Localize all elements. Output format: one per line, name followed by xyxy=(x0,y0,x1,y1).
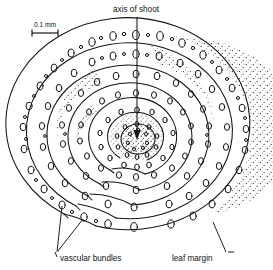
shoot-cross-section-figure: axis of shoot 0.1 mm vascular bundles le… xyxy=(0,0,273,270)
vascular-bundle xyxy=(40,144,45,151)
vascular-bundle xyxy=(209,85,214,92)
vascular-bundle xyxy=(147,162,152,168)
vascular-bundle xyxy=(229,84,235,92)
vascular-bundle-small xyxy=(45,75,48,78)
vascular-bundle xyxy=(164,182,170,189)
vascular-bundle xyxy=(131,203,137,211)
vascular-bundle-small xyxy=(170,37,173,40)
vascular-bundle xyxy=(171,130,175,135)
vascular-bundle xyxy=(106,117,110,123)
vascular-bundle-small xyxy=(237,97,240,100)
section-body xyxy=(6,18,273,232)
vascular-bundle-small xyxy=(226,78,229,81)
vascular-bundle xyxy=(98,130,102,135)
vascular-bundle xyxy=(173,80,178,87)
vascular-bundle xyxy=(216,66,222,74)
vascular-bundle xyxy=(89,58,95,66)
leaf-margin-label: leaf margin xyxy=(172,254,213,263)
vascular-bundle-small xyxy=(24,116,27,119)
vascular-bundle xyxy=(225,185,231,193)
vascular-bundle xyxy=(186,192,192,199)
vascular-bundle-small xyxy=(51,197,54,200)
vascular-bundle xyxy=(100,98,105,104)
vascular-bundle xyxy=(89,38,95,46)
vascular-bundle xyxy=(41,185,47,193)
vascular-bundle xyxy=(223,144,228,151)
vascular-bundle xyxy=(216,163,221,170)
vascular-bundle xyxy=(209,200,215,208)
vascular-bundle-small xyxy=(211,61,214,64)
vascular-bundle xyxy=(68,158,73,165)
vascular-bundle xyxy=(21,145,27,152)
vascular-bundle xyxy=(170,144,174,149)
axis-of-shoot-label: axis of shoot xyxy=(113,5,160,14)
vascular-bundle xyxy=(62,179,68,186)
vascular-bundle xyxy=(170,165,175,171)
vascular-bundle xyxy=(219,104,224,111)
vascular-bundle xyxy=(113,72,119,79)
vascular-bundle xyxy=(151,172,156,179)
vascular-bundle xyxy=(135,164,140,170)
scale-bar-label: 0.1 mm xyxy=(34,21,56,28)
vascular-bundle xyxy=(39,123,44,130)
leader-line-icon xyxy=(58,219,83,251)
vascular-bundle xyxy=(60,141,65,148)
vascular-bundle xyxy=(133,174,138,181)
vascular-bundle xyxy=(45,102,50,109)
vascular-bundle xyxy=(243,125,249,132)
vascular-bundle-small xyxy=(61,59,64,62)
vascular-bundle xyxy=(119,109,123,115)
vascular-bundle xyxy=(56,84,62,91)
vascular-bundle-small xyxy=(206,134,209,137)
scale-bar-icon xyxy=(32,30,58,37)
vascular-bundle xyxy=(78,138,83,144)
vascular-bundle xyxy=(200,51,206,59)
vascular-bundle xyxy=(71,69,77,76)
leader-line-icon xyxy=(57,206,62,252)
vascular-bundle-small xyxy=(244,117,247,120)
vascular-bundle xyxy=(99,144,103,150)
vascular-bundle xyxy=(26,102,32,110)
vascular-bundle xyxy=(110,32,116,41)
vascular-bundle xyxy=(103,182,109,189)
vascular-bundle-small xyxy=(146,54,149,57)
vascular-bundle xyxy=(105,220,111,228)
vascular-bundle xyxy=(154,72,160,79)
vascular-bundle xyxy=(66,105,71,112)
vascular-bundle xyxy=(224,124,229,131)
vascular-bundle xyxy=(168,98,173,104)
vascular-bundle xyxy=(239,104,245,111)
vascular-bundle xyxy=(20,123,26,130)
vascular-bundle xyxy=(68,49,74,57)
vascular-bundle xyxy=(179,39,185,47)
vascular-bundle xyxy=(133,30,140,39)
vascular-bundle-small xyxy=(79,45,82,48)
vascular-bundle xyxy=(116,172,121,179)
vascular-bundle xyxy=(85,153,90,159)
vascular-bundle xyxy=(203,179,209,186)
vascular-bundle xyxy=(133,50,139,58)
diagram-svg: axis of shoot 0.1 mm vascular bundles le… xyxy=(0,0,273,270)
vascular-bundle xyxy=(133,70,139,78)
vascular-bundle-small xyxy=(25,138,28,141)
vascular-bundle xyxy=(166,200,172,208)
vascular-bundle xyxy=(163,117,167,123)
vascular-bundle xyxy=(37,82,43,90)
vascular-bundle xyxy=(105,200,111,208)
vascular-bundle-small xyxy=(101,57,104,60)
vascular-bundle-small xyxy=(44,135,47,138)
vascular-bundle xyxy=(161,155,165,161)
vascular-bundle xyxy=(99,165,104,172)
vascular-bundle xyxy=(157,32,164,41)
vascular-bundle-small xyxy=(99,36,102,39)
vascular-bundle-small xyxy=(70,210,73,213)
vascular-bundle-small xyxy=(146,33,149,36)
vascular-bundle xyxy=(184,173,189,180)
leader-line-icon xyxy=(55,252,57,257)
vascular-bundle xyxy=(122,162,127,168)
vascular-bundle-small xyxy=(64,133,67,136)
vascular-bundle xyxy=(110,52,116,60)
vascular-bundle xyxy=(108,155,112,161)
vascular-bundle xyxy=(60,122,65,129)
vascular-bundle-small xyxy=(123,53,126,56)
